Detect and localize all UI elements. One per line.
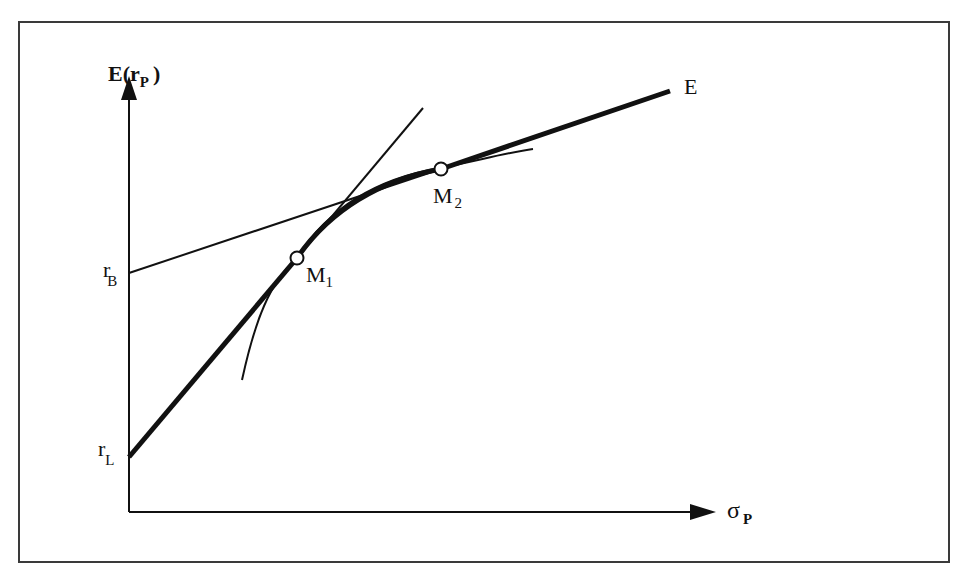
frontier-label-e: E [684,74,697,99]
point-m1 [291,252,304,265]
x-axis-label: σP [727,497,752,527]
borrowing-line-thick [441,91,670,169]
frontier-diagram: E(rP) σP E M1 M2 rB rL [0,0,970,586]
point-m2 [435,163,448,176]
lending-line-thick [129,258,297,457]
label-m2: M2 [433,183,462,211]
label-rl: rL [98,436,115,468]
label-m1: M1 [306,262,333,290]
frontier-segment-thick [297,169,441,258]
y-axis-label: E(rP) [108,61,160,90]
x-axis-arrow-icon [690,504,716,520]
label-rb: rB [103,257,117,289]
